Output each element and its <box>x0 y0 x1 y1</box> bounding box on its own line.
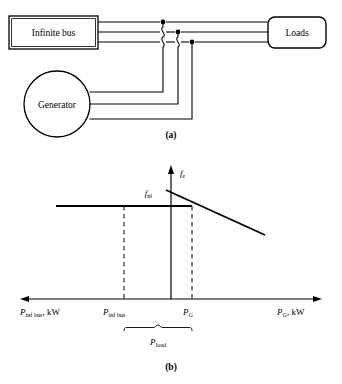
x-axis-arrow-right <box>313 296 322 302</box>
f-nl-label: fnl <box>145 188 153 199</box>
generator-feeder-b <box>90 32 179 104</box>
p-g-tick-label: PG <box>182 307 194 318</box>
junction-dot-phase-1 <box>161 20 166 25</box>
circuit-diagram: Infinite bus Loads Generator <box>9 16 326 141</box>
y-axis-label: fe <box>180 168 186 179</box>
p-load-subscript: load <box>155 341 167 348</box>
caption-b: (b) <box>165 362 177 373</box>
p-load-label: Pload <box>149 337 167 348</box>
generator-droop-line <box>166 190 265 235</box>
generator-label: Generator <box>38 100 77 110</box>
junction-dot-phase-3 <box>190 40 195 45</box>
f-nl-subscript: nl <box>147 192 152 199</box>
infinite-bus-label: Infinite bus <box>32 28 76 38</box>
loads-block[interactable]: Loads <box>268 17 326 48</box>
p-inf-bus-tick-subscript: inf bus <box>109 311 127 318</box>
generator-block[interactable]: Generator <box>24 71 90 137</box>
f-e-subscript: e <box>183 172 186 179</box>
p-inf-bus-unit-text: , kW <box>43 307 61 317</box>
y-axis <box>168 165 174 299</box>
infinite-bus-block[interactable]: Infinite bus <box>9 16 98 49</box>
p-g-tick-subscript: G <box>189 311 194 318</box>
p-g-unit-text: , kW <box>287 307 305 317</box>
figure-container: Infinite bus Loads Generator <box>0 0 342 384</box>
junction-dot-phase-2 <box>176 30 181 35</box>
x-axis-arrow-left <box>20 296 29 302</box>
caption-a: (a) <box>165 130 176 141</box>
generator-feeder-c <box>90 42 192 119</box>
x-axis-label-right: PG, kW <box>276 307 305 318</box>
p-inf-bus-unit-subscript: inf bus <box>26 311 44 318</box>
p-load-brace <box>124 325 192 331</box>
p-inf-bus-tick-label: Pinf bus <box>102 307 126 318</box>
house-diagram: fnl fe Pinf bus, kW Pinf bus PG PG, kW P… <box>19 165 322 373</box>
y-axis-arrow <box>168 165 174 174</box>
figure-svg: Infinite bus Loads Generator <box>0 0 342 384</box>
x-axis-label-left: Pinf bus, kW <box>19 307 61 318</box>
loads-label: Loads <box>285 28 309 38</box>
